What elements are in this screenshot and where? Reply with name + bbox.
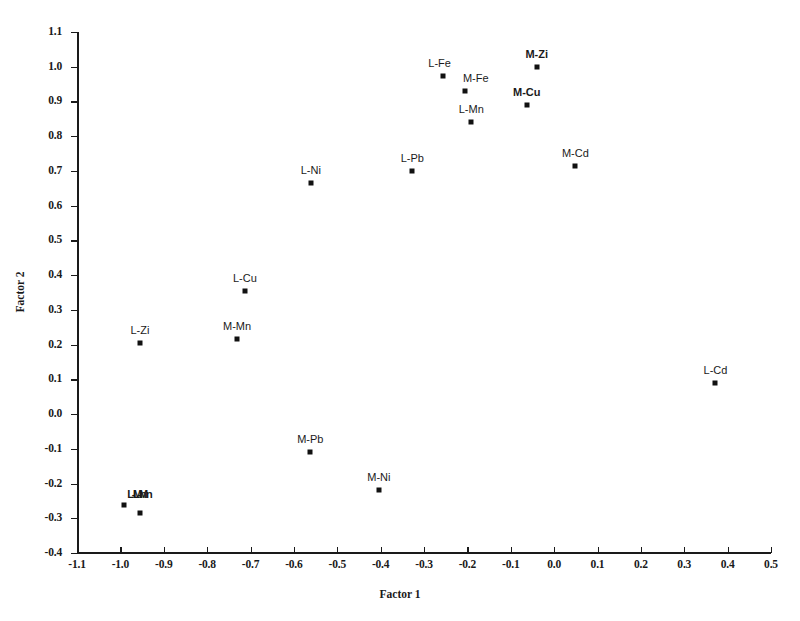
x-axis-tick-label: -0.3 <box>402 558 446 570</box>
y-axis-tick <box>71 518 77 519</box>
data-point-marker <box>410 168 415 173</box>
data-point-label: M-Mn <box>223 320 251 332</box>
y-axis-tick-label: 1.1 <box>16 25 62 37</box>
data-point-label: L-Fe <box>428 57 451 69</box>
x-axis-tick-label: 0.2 <box>619 558 663 570</box>
x-axis-tick-label: -1.1 <box>55 558 99 570</box>
y-axis-tick <box>71 449 77 450</box>
data-point-marker <box>308 450 313 455</box>
data-point-marker <box>713 380 718 385</box>
scatter-plot-figure: 1.11.00.90.80.70.60.50.40.30.20.10.0-0.1… <box>0 0 800 621</box>
x-axis-tick <box>251 547 252 553</box>
x-axis-tick <box>381 547 382 553</box>
x-axis-tick-label: 0.3 <box>662 558 706 570</box>
x-axis-tick <box>554 547 555 553</box>
data-point-marker <box>242 288 247 293</box>
data-point-marker <box>440 74 445 79</box>
x-axis-tick-label: 0.0 <box>532 558 576 570</box>
x-axis-tick <box>641 547 642 553</box>
x-axis-tick-label: -0.4 <box>359 558 403 570</box>
x-axis-tick-label: -0.2 <box>445 558 489 570</box>
x-axis-tick-label: 0.1 <box>576 558 620 570</box>
data-point-marker <box>524 102 529 107</box>
data-point-label: L-Zi <box>130 324 149 336</box>
y-axis-tick <box>71 484 77 485</box>
x-axis-tick <box>424 547 425 553</box>
y-axis-tick-label: -0.2 <box>16 477 62 489</box>
data-point-marker <box>462 89 467 94</box>
data-point-label: M-Cu <box>513 86 541 98</box>
data-point-label: L-Ni <box>301 164 321 176</box>
x-axis-tick <box>511 547 512 553</box>
x-axis-tick-label: -0.1 <box>489 558 533 570</box>
x-axis-tick <box>207 547 208 553</box>
data-point-marker <box>376 488 381 493</box>
y-axis-tick-label: 1.0 <box>16 60 62 72</box>
x-axis-title: Factor 1 <box>0 588 800 600</box>
y-axis-tick-label: 0.7 <box>16 164 62 176</box>
data-point-label: L-Mn <box>133 488 150 500</box>
y-axis-tick-label: 0.8 <box>16 129 62 141</box>
y-axis-tick <box>71 101 77 102</box>
x-axis-tick <box>294 547 295 553</box>
y-axis-tick <box>71 171 77 172</box>
y-axis-tick <box>71 206 77 207</box>
y-axis-line <box>77 32 79 553</box>
x-axis-tick-label: -0.7 <box>229 558 273 570</box>
y-axis-tick <box>71 553 77 554</box>
y-axis-tick-label: 0.0 <box>16 407 62 419</box>
data-point-label: L-Mn <box>459 103 484 115</box>
data-point-label: L-Pb <box>401 152 424 164</box>
y-axis-tick-label: 0.9 <box>16 94 62 106</box>
y-axis-tick <box>71 379 77 380</box>
data-point-marker <box>573 163 578 168</box>
data-point-label: M-Ni <box>367 471 390 483</box>
data-point-label: L-Cd <box>704 364 728 376</box>
y-axis-tick <box>71 136 77 137</box>
x-axis-tick-label: -0.8 <box>185 558 229 570</box>
data-point-label: M-Fe <box>463 72 489 84</box>
y-axis-tick <box>71 67 77 68</box>
x-axis-tick-label: -1.0 <box>98 558 142 570</box>
y-axis-title: Factor 2 <box>14 242 26 342</box>
y-axis-tick-label: -0.4 <box>16 546 62 558</box>
data-point-label: M-Pb <box>297 433 323 445</box>
y-axis-tick <box>71 414 77 415</box>
x-axis-tick <box>337 547 338 553</box>
x-axis-tick-label: 0.5 <box>749 558 793 570</box>
data-point-label: M-Cd <box>562 147 589 159</box>
y-axis-tick-label: -0.3 <box>16 511 62 523</box>
x-axis-tick <box>77 547 78 553</box>
x-axis-tick <box>598 547 599 553</box>
data-point-label: M-Zi <box>525 48 548 60</box>
data-point-marker <box>121 503 126 508</box>
x-axis-tick-label: -0.6 <box>272 558 316 570</box>
data-point-marker <box>235 337 240 342</box>
y-axis-tick <box>71 310 77 311</box>
y-axis-tick <box>71 32 77 33</box>
x-axis-tick-label: -0.5 <box>315 558 359 570</box>
x-axis-tick <box>771 547 772 553</box>
data-point-label: L-Cu <box>233 272 257 284</box>
x-axis-tick <box>684 547 685 553</box>
y-axis-tick-label: -0.1 <box>16 442 62 454</box>
data-point-marker <box>308 181 313 186</box>
y-axis-tick <box>71 275 77 276</box>
y-axis-tick-label: 0.6 <box>16 199 62 211</box>
y-axis-tick <box>71 345 77 346</box>
y-axis-tick-label: 0.1 <box>16 372 62 384</box>
x-axis-tick <box>120 547 121 553</box>
x-axis-tick-label: 0.4 <box>706 558 750 570</box>
y-axis-tick <box>71 240 77 241</box>
data-point-marker <box>137 340 142 345</box>
x-axis-tick <box>728 547 729 553</box>
data-point-marker <box>137 511 142 516</box>
x-axis-tick <box>164 547 165 553</box>
x-axis-tick <box>467 547 468 553</box>
data-point-marker <box>469 120 474 125</box>
x-axis-tick-label: -0.9 <box>142 558 186 570</box>
data-point-marker <box>534 64 539 69</box>
